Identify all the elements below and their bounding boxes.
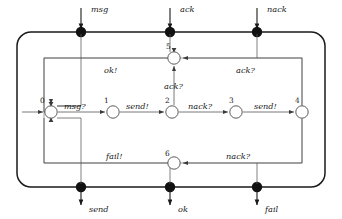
automaton-diagram-svg: msg ack nack send ok fail (0, 0, 342, 219)
transition-label-fail-out: fail! (105, 151, 122, 161)
transition-label-send-out-2: send! (254, 101, 277, 111)
transition-label-msg-in: msg? (64, 101, 86, 111)
state-label-4: 4 (295, 96, 300, 105)
state-node-5[interactable] (168, 52, 180, 64)
state-node-6[interactable] (168, 157, 180, 169)
transition-label-nack-in-1: nack? (188, 101, 213, 111)
state-label-6: 6 (165, 149, 170, 158)
state-node-4[interactable] (296, 106, 308, 118)
state-label-5: 5 (166, 42, 171, 51)
state-label-1: 1 (104, 96, 109, 105)
port-label-ack: ack (180, 4, 194, 14)
state-node-2[interactable] (166, 106, 178, 118)
state-label-3: 3 (229, 96, 234, 105)
state-node-0[interactable] (45, 106, 57, 118)
transition-label-nack-in-2: nack? (226, 151, 251, 161)
state-node-1[interactable] (107, 106, 119, 118)
state-label-0: 0 (40, 96, 45, 105)
state-node-3[interactable] (230, 106, 242, 118)
transition-label-send-out-1: send! (126, 101, 149, 111)
port-label-nack: nack (267, 4, 287, 14)
transition-label-ok-out: ok! (104, 65, 117, 75)
transition-label-ack-in-1: ack? (164, 81, 183, 91)
port-label-ok: ok (178, 204, 188, 214)
transition-label-ack-in-2: ack? (236, 65, 255, 75)
diagram-canvas: msg ack nack send ok fail (0, 0, 342, 219)
port-label-send: send (89, 204, 109, 214)
port-label-fail: fail (264, 204, 279, 214)
state-label-2: 2 (165, 96, 170, 105)
bottom-port-arrows (81, 190, 257, 205)
port-label-msg: msg (91, 4, 108, 14)
